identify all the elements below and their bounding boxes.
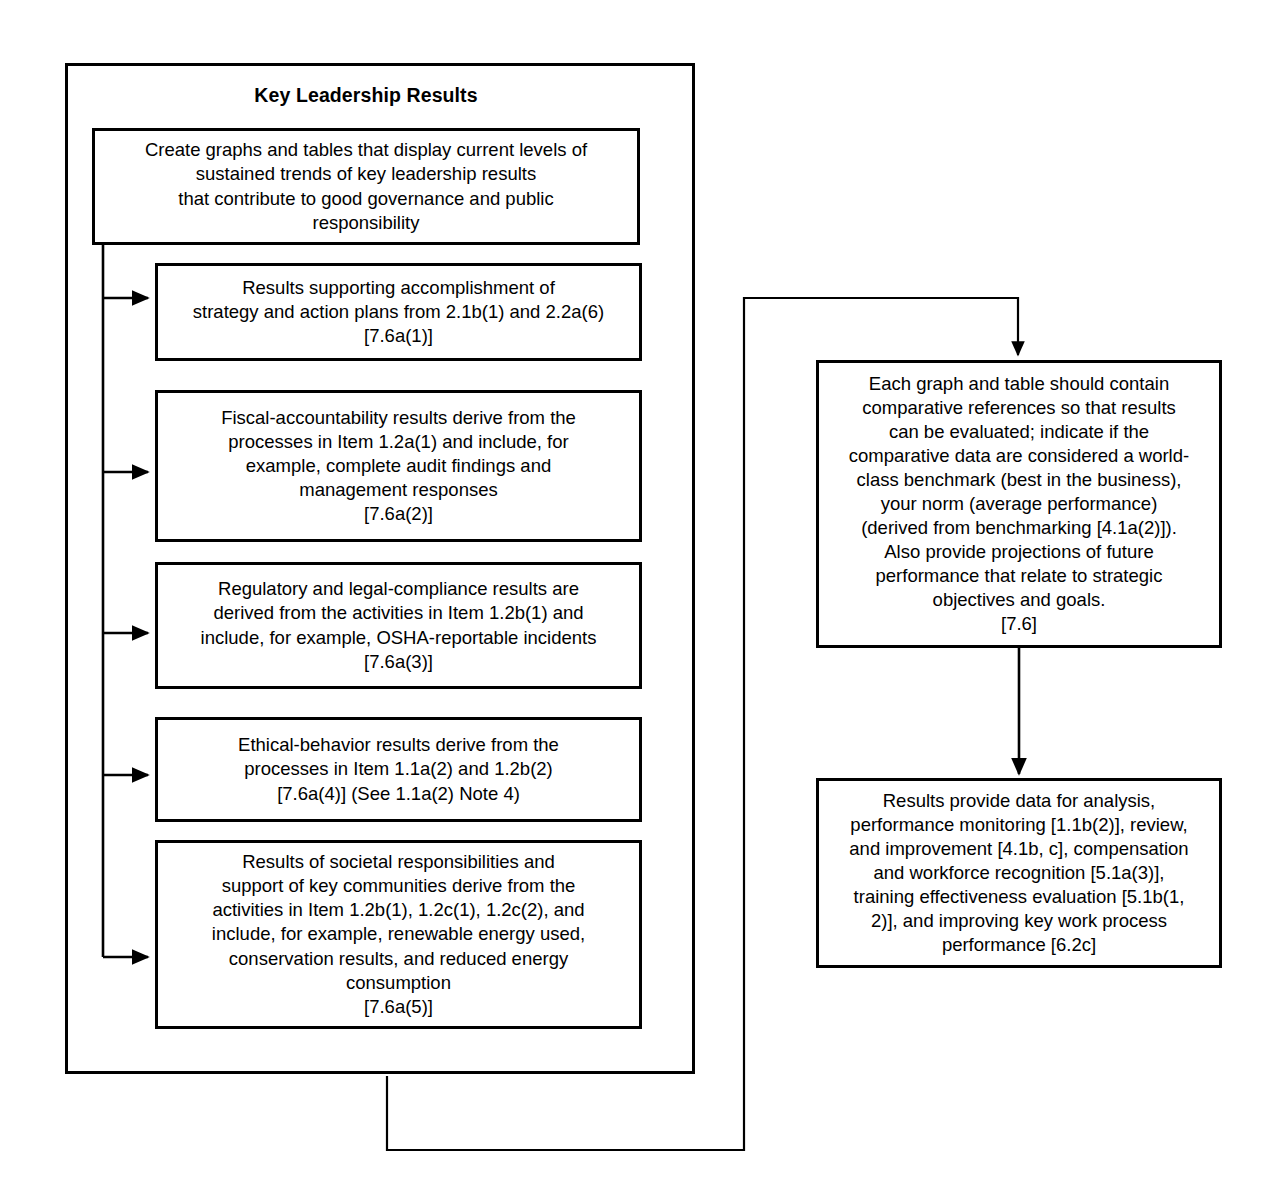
node-societal-text: Results of societal responsibilities and… [168, 850, 629, 1018]
node-regulatory-legal-compliance-results[interactable]: Regulatory and legal-compliance results … [155, 562, 642, 689]
node-analysis-text: Results provide data for analysis,perfor… [829, 789, 1209, 957]
node-ethical-text: Ethical-behavior results derive from the… [168, 733, 629, 805]
node-results-provide-data-for-analysis[interactable]: Results provide data for analysis,perfor… [816, 778, 1222, 968]
node-fiscal-text: Fiscal-accountability results derive fro… [168, 406, 629, 526]
node-ethical-behavior-results[interactable]: Ethical-behavior results derive from the… [155, 717, 642, 822]
node-comparative-references[interactable]: Each graph and table should containcompa… [816, 360, 1222, 648]
node-comparative-text: Each graph and table should containcompa… [829, 372, 1209, 637]
node-societal-responsibilities-results[interactable]: Results of societal responsibilities and… [155, 840, 642, 1029]
node-create-graphs-and-tables[interactable]: Create graphs and tables that display cu… [92, 128, 640, 245]
node-strategy-text: Results supporting accomplishment ofstra… [168, 276, 629, 348]
diagram-title: Key Leadership Results [92, 84, 640, 106]
diagram-canvas: Key Leadership Results Create graphs and… [0, 0, 1287, 1204]
node-create-text: Create graphs and tables that display cu… [105, 138, 627, 234]
node-regulatory-text: Regulatory and legal-compliance results … [168, 577, 629, 673]
node-fiscal-accountability-results[interactable]: Fiscal-accountability results derive fro… [155, 390, 642, 542]
node-results-supporting-strategy[interactable]: Results supporting accomplishment ofstra… [155, 263, 642, 361]
